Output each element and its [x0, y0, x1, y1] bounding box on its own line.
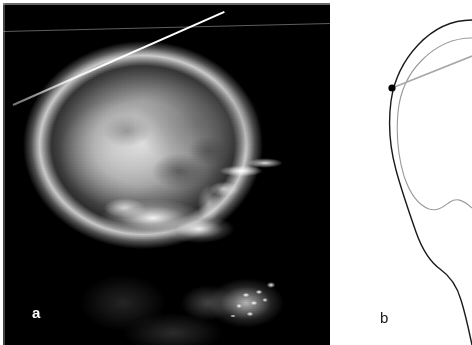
- panel-label-b: b: [380, 310, 388, 325]
- film-edge-left: [3, 3, 5, 345]
- radiograph-film-plate: [3, 3, 330, 345]
- figure-container: a b: [0, 0, 472, 345]
- panel-label-a: a: [32, 305, 40, 320]
- skull-inner-contour: [397, 38, 472, 210]
- skull-outer-contour: [390, 20, 472, 345]
- landmark-marker-dot: [388, 84, 395, 91]
- film-edge-top: [3, 3, 330, 5]
- tracing-svg: [330, 0, 472, 345]
- reference-baseline: [392, 56, 472, 88]
- panel-b-tracing: b: [330, 0, 472, 345]
- panel-a-radiograph: a: [3, 3, 330, 345]
